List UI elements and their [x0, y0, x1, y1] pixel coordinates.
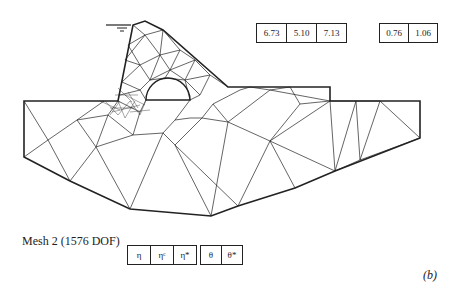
panel-label: (b) [423, 268, 437, 283]
mesh-caption: Mesh 2 (1576 DOF) [22, 234, 120, 249]
label-cell: θ* [222, 246, 242, 264]
value-cell: 6.73 [257, 24, 287, 42]
label-cell: θ [201, 246, 222, 264]
value-cell: 7.13 [317, 24, 346, 42]
bottom-labels-group-2: θ θ* [200, 245, 243, 265]
label-cell: ηᶜ [151, 246, 174, 264]
water-level-icon [106, 25, 131, 31]
label-cell: η* [174, 246, 196, 264]
mesh-boundary [24, 21, 420, 216]
top-values-group-2: 0.76 1.06 [379, 23, 438, 43]
top-values-group-1: 6.73 5.10 7.13 [256, 23, 347, 43]
bottom-labels-group-1: η ηᶜ η* [127, 245, 197, 265]
value-cell: 5.10 [287, 24, 317, 42]
value-cell: 0.76 [380, 24, 409, 42]
value-cell: 1.06 [409, 24, 437, 42]
label-cell: η [128, 246, 151, 264]
